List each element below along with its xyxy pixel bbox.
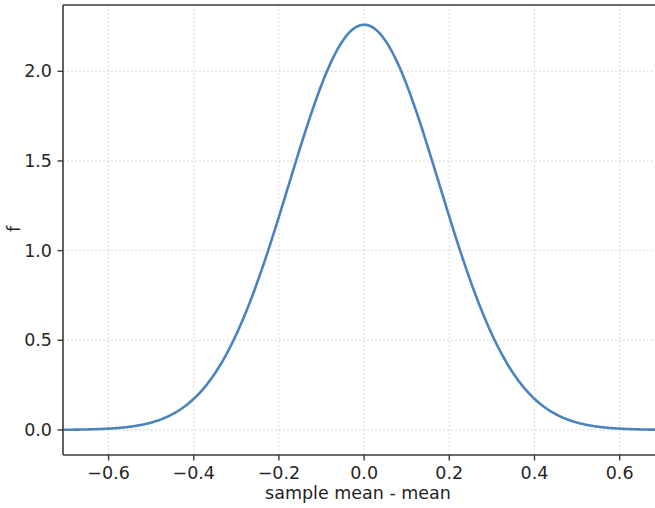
- y-tick-label: 0.0: [24, 420, 52, 440]
- y-axis-tick-labels: 0.00.51.01.52.0: [24, 61, 52, 440]
- plot-area-background: [63, 5, 655, 455]
- x-axis-tick-labels: −0.6−0.4−0.20.00.20.40.6: [87, 463, 633, 483]
- x-tick-label: 0.6: [606, 463, 634, 483]
- y-tick-label: 2.0: [24, 61, 52, 81]
- chart-svg: −0.6−0.4−0.20.00.20.40.6 0.00.51.01.52.0…: [0, 0, 655, 508]
- x-tick-label: 0.2: [435, 463, 463, 483]
- y-tick-label: 0.5: [24, 330, 52, 350]
- y-axis-label: f: [4, 225, 24, 232]
- x-axis-tickmarks: [109, 455, 620, 461]
- y-axis-tickmarks: [58, 71, 64, 430]
- x-axis-label: sample mean - mean: [265, 483, 451, 503]
- y-tick-label: 1.0: [24, 241, 52, 261]
- x-tick-label: −0.2: [258, 463, 301, 483]
- x-tick-label: 0.0: [350, 463, 378, 483]
- figure-canvas: −0.6−0.4−0.20.00.20.40.6 0.00.51.01.52.0…: [0, 0, 655, 508]
- x-tick-label: 0.4: [521, 463, 549, 483]
- x-tick-label: −0.4: [173, 463, 216, 483]
- x-tick-label: −0.6: [87, 463, 130, 483]
- y-tick-label: 1.5: [24, 151, 52, 171]
